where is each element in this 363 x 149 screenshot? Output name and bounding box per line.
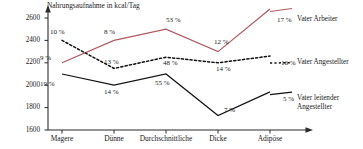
annotation-arbeiter-duenne: 8 % <box>104 29 115 36</box>
annotation-angestellter-durchschnittliche: 48 % <box>163 60 178 67</box>
y-tick-label-2000: 2000 <box>14 82 40 89</box>
annotation-angestellter-magere: 10 % <box>50 29 65 36</box>
y-tick-label-2200: 2200 <box>14 59 40 66</box>
annotation-angestellter-dicke: 14 % <box>216 66 231 73</box>
legend-label-vater-arbeiter: Vater Arbeiter <box>297 16 338 23</box>
annotation-arbeiter-durchschnittliche: 53 % <box>166 17 181 24</box>
annotation-angestellter-duenne: 13 % <box>104 59 119 66</box>
chart-axis-title: Nahrungsaufnahme in kcal/Tag <box>47 2 140 9</box>
annotation-arbeiter-magere: 9 % <box>40 55 51 62</box>
annotation-arbeiter-adipoese: 17 % <box>277 17 292 24</box>
annotation-leitender-magere: 19 % <box>40 81 55 88</box>
chart-container: Nahrungsaufnahme in kcal/Tag 2600 2400 2… <box>0 0 363 149</box>
legend-label-vater-leitender-angestellter-line2: Angestellter <box>297 104 332 111</box>
y-tick-label-2600: 2600 <box>14 15 40 22</box>
annotation-angestellter-adipoese: 16 % <box>281 60 296 67</box>
annotation-leitender-durchschnittliche: 55 % <box>155 80 170 87</box>
annotation-leitender-dicke: 7 % <box>224 107 235 114</box>
annotation-arbeiter-dicke: 12 % <box>214 39 229 46</box>
x-tick-label-adipoese: Adipöse <box>230 135 310 142</box>
x-axis-arrow-icon <box>306 127 314 133</box>
y-tick-label-1600: 1600 <box>14 127 40 134</box>
annotation-leitender-duenne: 14 % <box>104 89 119 96</box>
legend-stub-arbeiter <box>270 9 292 12</box>
legend-label-vater-leitender-angestellter-line1: Vater leitender <box>297 95 339 102</box>
y-tick-label-2400: 2400 <box>14 37 40 44</box>
legend-label-vater-angestellter: Vater Angestellter <box>297 59 349 66</box>
y-tick-label-1800: 1800 <box>14 104 40 111</box>
annotation-leitender-adipoese: 5 % <box>283 96 294 103</box>
